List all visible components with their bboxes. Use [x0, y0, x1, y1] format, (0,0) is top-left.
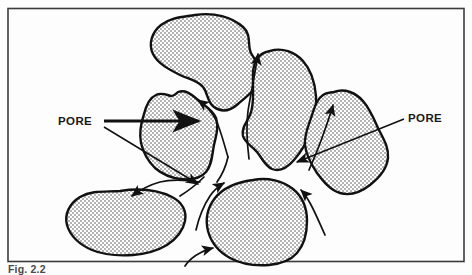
- flow-arrow-center-down: [217, 157, 228, 182]
- figure-container: PORE PORE Fig. 2.2: [0, 0, 472, 275]
- pore-label-left: PORE: [58, 115, 92, 127]
- pore-diagram: PORE PORE Fig. 2.2: [0, 0, 472, 275]
- grain-left-center: [140, 91, 217, 179]
- figure-caption: Fig. 2.2: [8, 263, 46, 275]
- flow-arrow-bottom-center: [185, 248, 213, 266]
- pore-label-right: PORE: [408, 112, 442, 124]
- grain-bottom-left: [66, 190, 185, 256]
- grain-bottom-center: [207, 179, 307, 265]
